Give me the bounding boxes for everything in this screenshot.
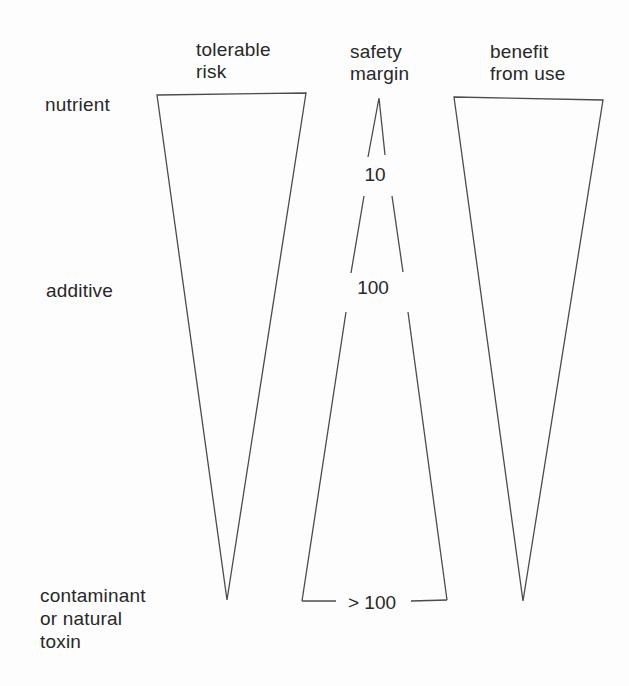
- safety-margin-apex: [368, 98, 385, 157]
- row-label-contaminant-or-natural-toxin: contaminant or natural toxin: [40, 584, 146, 653]
- safety-margin-value-contaminant: > 100: [332, 592, 412, 614]
- safety-margin-right-edge-mid: [392, 196, 403, 272]
- safety-margin-value-nutrient: 10: [350, 164, 400, 186]
- funnel-diagram: tolerable risk safety margin benefit fro…: [0, 0, 629, 686]
- safety-margin-left-edge-mid: [351, 196, 364, 273]
- column-header-safety-margin: safety margin: [350, 41, 409, 85]
- safety-margin-value-additive: 100: [348, 277, 398, 299]
- safety-margin-base-right: [411, 600, 447, 601]
- row-label-additive: additive: [46, 280, 113, 302]
- column-header-tolerable-risk: tolerable risk: [196, 39, 271, 83]
- safety-margin-right-edge-low: [408, 312, 447, 600]
- safety-margin-left-edge-low: [302, 312, 346, 601]
- tolerable-risk-funnel: [157, 93, 306, 600]
- benefit-from-use-funnel: [454, 97, 603, 601]
- column-header-benefit-from-use: benefit from use: [490, 41, 566, 85]
- row-label-nutrient: nutrient: [45, 94, 110, 116]
